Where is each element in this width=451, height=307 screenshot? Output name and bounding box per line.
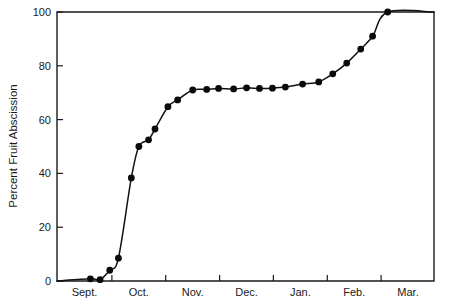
data-point bbox=[256, 85, 263, 92]
data-point bbox=[357, 46, 364, 53]
data-point bbox=[230, 86, 237, 93]
y-axis-tick-labels: 100 80 60 40 20 0 bbox=[33, 6, 51, 287]
x-axis-tick-labels: Sept. Oct. Nov. Dec. Jan. Feb. Mar. bbox=[72, 286, 419, 298]
data-point bbox=[174, 97, 181, 104]
data-point bbox=[343, 60, 350, 67]
data-point bbox=[329, 70, 336, 77]
data-point bbox=[384, 9, 391, 16]
data-point bbox=[269, 85, 276, 92]
data-point bbox=[369, 33, 376, 40]
data-point bbox=[97, 276, 104, 283]
x-tick-label-dec: Dec. bbox=[235, 286, 258, 298]
data-point bbox=[115, 255, 122, 262]
chart-figure: 100 80 60 40 20 0 Sept. Oct. Nov. Dec. J… bbox=[0, 0, 451, 307]
y-tick-label-60: 60 bbox=[39, 114, 51, 126]
y-tick-label-100: 100 bbox=[33, 6, 51, 18]
data-point bbox=[87, 275, 94, 282]
data-point bbox=[282, 84, 289, 91]
abscission-data-points bbox=[87, 9, 391, 283]
y-tick-label-40: 40 bbox=[39, 167, 51, 179]
y-tick-label-20: 20 bbox=[39, 221, 51, 233]
data-point bbox=[189, 87, 196, 94]
x-tick-label-oct: Oct. bbox=[129, 286, 149, 298]
data-point bbox=[165, 103, 172, 110]
data-point bbox=[128, 175, 135, 182]
y-tick-label-80: 80 bbox=[39, 60, 51, 72]
data-point bbox=[106, 267, 113, 274]
data-point bbox=[215, 85, 222, 92]
y-axis-title: Percent Fruit Abscission bbox=[7, 84, 19, 207]
x-tick-label-feb: Feb. bbox=[343, 286, 365, 298]
x-axis-ticks bbox=[112, 275, 381, 281]
data-point bbox=[315, 79, 322, 86]
data-point bbox=[299, 81, 306, 88]
y-axis-ticks bbox=[57, 12, 63, 281]
x-tick-label-sept: Sept. bbox=[72, 286, 98, 298]
data-point bbox=[152, 126, 159, 133]
x-tick-label-jan: Jan. bbox=[290, 286, 311, 298]
y-tick-label-0: 0 bbox=[45, 275, 51, 287]
data-point bbox=[243, 84, 250, 91]
fruit-abscission-line-chart: 100 80 60 40 20 0 Sept. Oct. Nov. Dec. J… bbox=[0, 0, 451, 307]
data-point bbox=[135, 143, 142, 150]
data-point bbox=[203, 86, 210, 93]
abscission-curve bbox=[57, 10, 434, 281]
data-point bbox=[145, 136, 152, 143]
x-tick-label-nov: Nov. bbox=[182, 286, 204, 298]
plot-frame bbox=[57, 12, 434, 281]
x-tick-label-mar: Mar. bbox=[397, 286, 418, 298]
